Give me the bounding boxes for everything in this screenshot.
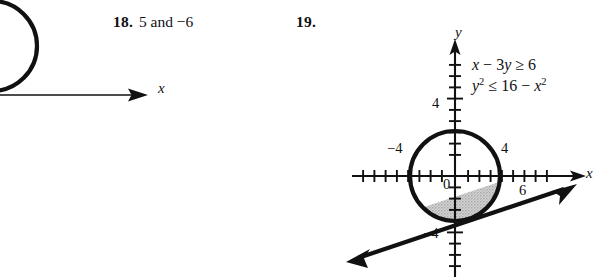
line-arrowhead-right: [552, 184, 577, 205]
x-tick-label-4: 4: [501, 140, 508, 157]
y-axis-label: y: [455, 24, 462, 41]
left-x-axis: [0, 74, 176, 116]
x-tick-label-6: 6: [519, 182, 526, 199]
inequality-label-2: y2 ≤ 16 − x2: [472, 78, 547, 94]
left-x-axis-label: x: [158, 80, 165, 97]
inequality-label-1: x − 3y ≥ 6: [472, 57, 536, 73]
exercise-19: 19.: [296, 13, 316, 31]
exercise-18-answer: 5 and −6: [139, 13, 193, 30]
line-arrowhead-left: [346, 249, 370, 268]
y-tick-label-neg4: −4: [423, 225, 438, 242]
exercise-18-number: 18.: [113, 13, 133, 30]
x-axis-label: x: [586, 165, 593, 182]
x-tick-label-neg4: −4: [387, 140, 402, 157]
origin-label: 0: [443, 176, 450, 193]
y-tick-label-4: 4: [432, 95, 439, 112]
exercise-19-graph: [330, 18, 604, 277]
exercise-19-number: 19.: [296, 13, 316, 30]
page-canvas: x 18.5 and −6 19.: [0, 0, 604, 277]
exercise-18: 18.5 and −6: [113, 13, 193, 31]
